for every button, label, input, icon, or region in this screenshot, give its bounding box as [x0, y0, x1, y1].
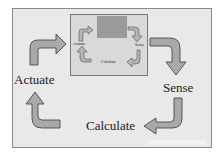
watermark	[148, 140, 206, 145]
label-sense: Sense	[163, 80, 193, 96]
inner-label-sense: Sense	[135, 42, 144, 47]
inner-label-calculate: Calculate	[101, 59, 116, 64]
arrow-calculate-to-actuate-icon	[26, 92, 60, 128]
arrow-to-sense-icon	[150, 38, 186, 75]
label-actuate: Actuate	[14, 72, 54, 88]
inner-arrow-1-icon	[79, 26, 93, 41]
inner-arrow-4-icon	[77, 46, 91, 62]
inner-arrow-3-icon	[127, 50, 140, 67]
label-calculate: Calculate	[86, 118, 135, 134]
arrow-sense-to-calculate-icon	[144, 98, 182, 134]
inner-label-actuate: Actuate	[73, 41, 85, 46]
arrow-actuate-to-sense-icon	[30, 34, 66, 65]
inner-arrow-2-icon	[128, 27, 142, 42]
